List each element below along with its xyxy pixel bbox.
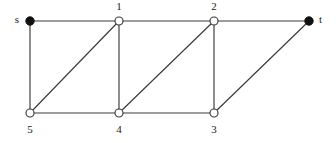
node-layer [26,17,313,117]
graph-figure: s12t543 [0,0,336,143]
graph-node-4[interactable] [115,109,123,117]
graph-node-label-s: s [15,13,19,25]
graph-node-label-3: 3 [211,123,217,135]
graph-node-s[interactable] [26,17,34,25]
graph-node-label-1: 1 [116,0,122,12]
graph-node-label-4: 4 [116,123,122,135]
graph-node-label-5: 5 [27,123,33,135]
node-label-layer: s12t543 [15,0,322,135]
graph-edge-5-1 [30,21,119,113]
graph-node-label-2: 2 [211,0,217,12]
graph-edge-4-2 [119,21,214,113]
graph-node-1[interactable] [115,17,123,25]
graph-node-label-t: t [319,13,322,25]
graph-node-5[interactable] [26,109,34,117]
graph-node-t[interactable] [305,17,313,25]
graph-edge-3-t [214,21,309,113]
graph-canvas: s12t543 [0,0,336,143]
edge-layer [30,21,309,113]
graph-node-2[interactable] [210,17,218,25]
graph-node-3[interactable] [210,109,218,117]
